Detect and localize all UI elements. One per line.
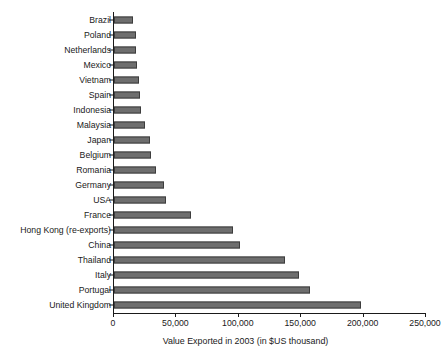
bar-row: Thailand	[0, 253, 445, 268]
x-axis-title: Value Exported in 2003 (in $US thousand)	[0, 337, 445, 346]
y-axis-tick	[109, 169, 113, 170]
bar-row: Hong Kong (re-exports)	[0, 223, 445, 238]
y-axis-tick	[109, 290, 113, 291]
x-axis-tick-label: 250,000	[409, 319, 440, 328]
x-axis-tick	[300, 313, 301, 317]
bar-row: Mexico	[0, 57, 445, 72]
y-axis-tick	[109, 200, 113, 201]
bar	[114, 106, 141, 113]
bar-row: China	[0, 238, 445, 253]
category-label: Belgium	[80, 151, 111, 160]
category-label: Romania	[76, 166, 111, 175]
bar	[114, 151, 151, 158]
y-axis-tick	[109, 154, 113, 155]
bar-row: Poland	[0, 27, 445, 42]
bar	[114, 121, 145, 128]
bar-row: Italy	[0, 268, 445, 283]
y-axis-tick	[109, 109, 113, 110]
bar-chart: BrazilPolandNetherlandsMexicoVietnamSpai…	[0, 0, 445, 360]
y-axis-tick	[109, 260, 113, 261]
bar	[114, 91, 140, 98]
bar	[114, 227, 233, 234]
x-axis-tick-label: 150,000	[284, 319, 315, 328]
y-axis-tick	[109, 94, 113, 95]
bar-row: Spain	[0, 87, 445, 102]
category-label: Thailand	[78, 256, 111, 265]
x-axis-tick	[363, 313, 364, 317]
category-label: Germany	[75, 181, 111, 190]
bar-row: Indonesia	[0, 102, 445, 117]
x-axis-tick-label: 200,000	[347, 319, 378, 328]
bar-row: USA	[0, 193, 445, 208]
bar-row: Belgium	[0, 147, 445, 162]
category-label: Hong Kong (re-exports)	[20, 226, 111, 235]
x-axis-tick	[113, 313, 114, 317]
bar-row: Japan	[0, 132, 445, 147]
bar	[114, 302, 361, 309]
x-axis-title-text: Value Exported in 2003 (in $US thousand)	[163, 337, 329, 346]
category-label: Brazil	[89, 15, 111, 24]
category-label: France	[84, 211, 111, 220]
bar-row: Portugal	[0, 283, 445, 298]
bar-row: Vietnam	[0, 72, 445, 87]
y-axis-tick	[109, 139, 113, 140]
bar-row: Netherlands	[0, 42, 445, 57]
bar	[114, 272, 299, 279]
y-axis-tick	[109, 64, 113, 65]
x-axis-tick-label: 50,000	[162, 319, 189, 328]
y-axis-tick	[109, 245, 113, 246]
bar	[114, 16, 133, 23]
y-axis-tick	[109, 230, 113, 231]
category-label: Poland	[84, 30, 111, 39]
bar-row: Malaysia	[0, 117, 445, 132]
bar	[114, 31, 136, 38]
category-label: Portugal	[79, 286, 111, 295]
bar	[114, 61, 137, 68]
y-axis-tick	[109, 275, 113, 276]
bar	[114, 287, 310, 294]
y-axis-tick	[109, 124, 113, 125]
bar	[114, 242, 240, 249]
bar-rows: BrazilPolandNetherlandsMexicoVietnamSpai…	[0, 12, 445, 313]
category-label: United Kingdom	[49, 301, 111, 310]
y-axis-tick	[109, 34, 113, 35]
bar-row: Brazil	[0, 12, 445, 27]
x-axis-tick	[175, 313, 176, 317]
bar	[114, 46, 136, 53]
bar	[114, 212, 191, 219]
bar-row: Germany	[0, 178, 445, 193]
category-label: Netherlands	[64, 45, 111, 54]
bar-row: Romania	[0, 162, 445, 177]
y-axis-tick	[109, 49, 113, 50]
y-axis-tick	[109, 19, 113, 20]
bar	[114, 197, 166, 204]
x-axis-tick	[238, 313, 239, 317]
bar	[114, 136, 150, 143]
bar-row: United Kingdom	[0, 298, 445, 313]
y-axis-tick	[109, 79, 113, 80]
category-label: Vietnam	[79, 75, 111, 84]
category-label: Japan	[87, 136, 111, 145]
category-label: Spain	[89, 90, 111, 99]
bar	[114, 257, 285, 264]
x-axis-tick-label: 0	[111, 319, 116, 328]
y-axis-tick	[109, 305, 113, 306]
y-axis-tick	[109, 215, 113, 216]
category-label: Indonesia	[73, 105, 111, 114]
y-axis-tick	[109, 185, 113, 186]
category-label: Malaysia	[77, 120, 111, 129]
x-axis-tick-label: 100,000	[222, 319, 253, 328]
bar	[114, 76, 139, 83]
category-label: China	[88, 241, 111, 250]
bar	[114, 182, 164, 189]
category-label: Mexico	[83, 60, 111, 69]
x-axis-tick	[425, 313, 426, 317]
bar-row: France	[0, 208, 445, 223]
bar	[114, 166, 156, 173]
